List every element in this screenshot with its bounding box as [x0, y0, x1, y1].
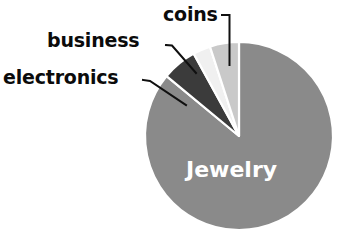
pie-label-business: business — [47, 31, 139, 50]
pie-label-electronics: electronics — [3, 68, 118, 87]
pie-label-jewelry: Jewelry — [186, 159, 277, 181]
pie-chart-figure: coins business electronics Jewelry — [0, 0, 340, 232]
pie-slices — [145, 42, 333, 230]
pie-label-coins: coins — [163, 5, 218, 24]
